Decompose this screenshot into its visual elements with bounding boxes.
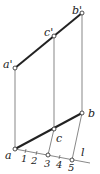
label-3: 3 [44, 158, 50, 169]
label-1: 1 [21, 153, 27, 164]
line-ab [15, 113, 82, 149]
label-c: c [56, 132, 62, 145]
label-a: a [5, 149, 12, 162]
line-c-3 [48, 129, 54, 155]
line-a-prime-b-prime [15, 13, 82, 68]
label-4: 4 [55, 159, 62, 170]
label-5: 5 [68, 162, 74, 173]
label-a-prime: a' [3, 58, 13, 71]
label-2: 2 [30, 155, 37, 166]
label-b: b [88, 107, 95, 120]
label-l: l [81, 146, 85, 159]
projection-diagram: a' c' b' a c b l 1 2 3 4 5 [0, 0, 100, 174]
point-a [13, 147, 17, 151]
point-3 [46, 153, 50, 157]
point-a-prime [13, 66, 17, 70]
point-c [52, 127, 56, 131]
point-b [80, 111, 84, 115]
label-b-prime: b' [72, 4, 82, 17]
label-c-prime: c' [44, 26, 53, 39]
